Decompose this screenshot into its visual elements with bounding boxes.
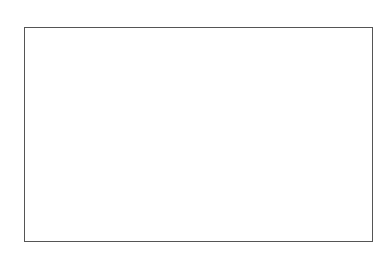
heatmap-plot-area: [25, 28, 372, 241]
